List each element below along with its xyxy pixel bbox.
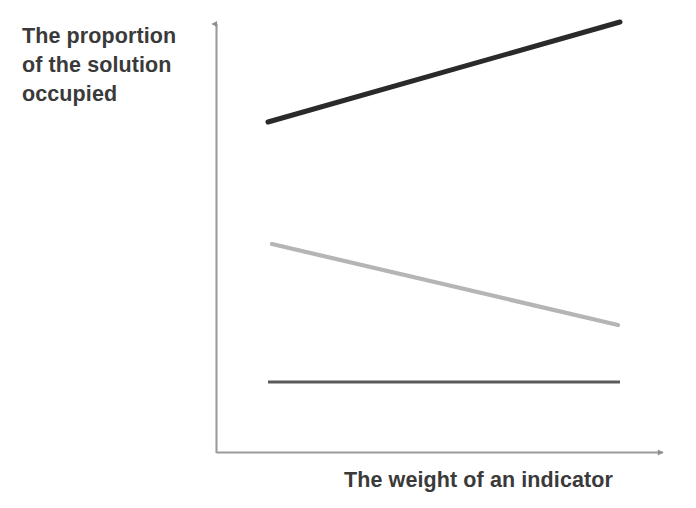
series-line-declining — [272, 244, 618, 325]
series-line-rising — [268, 22, 620, 122]
chart-figure: The proportion of the solution occupied … — [0, 0, 696, 508]
x-axis-label: The weight of an indicator — [344, 466, 613, 494]
y-axis-label: The proportion of the solution occupied — [22, 22, 204, 109]
